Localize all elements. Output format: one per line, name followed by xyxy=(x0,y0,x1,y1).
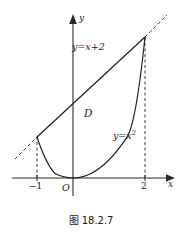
y-axis-arrowhead xyxy=(69,14,77,24)
x-tick-label-neg1: −1 xyxy=(29,182,42,191)
line-extension-upper-right xyxy=(145,15,167,37)
x-tick-label-2: 2 xyxy=(141,182,147,191)
line-curve-y-equals-x-plus-2 xyxy=(37,37,145,137)
line-extension-lower-left xyxy=(15,137,37,159)
y-axis-label: y xyxy=(79,14,84,23)
region-label-d: D xyxy=(84,108,92,119)
origin-label: O xyxy=(62,183,70,193)
x-axis-label: x xyxy=(168,180,173,189)
line-equation-label: y=x+2 xyxy=(72,42,105,52)
figure-caption: 图 18.2.7 xyxy=(0,212,182,227)
parabola-equation-label: y=x2 xyxy=(113,130,136,141)
coordinate-plot xyxy=(0,0,182,238)
parabola-equation-base: y=x xyxy=(113,130,132,141)
parabola-equation-exponent: 2 xyxy=(132,129,136,137)
figure-container: y=x+2 y=x2 D −1 2 O x y 图 18.2.7 xyxy=(0,0,182,238)
